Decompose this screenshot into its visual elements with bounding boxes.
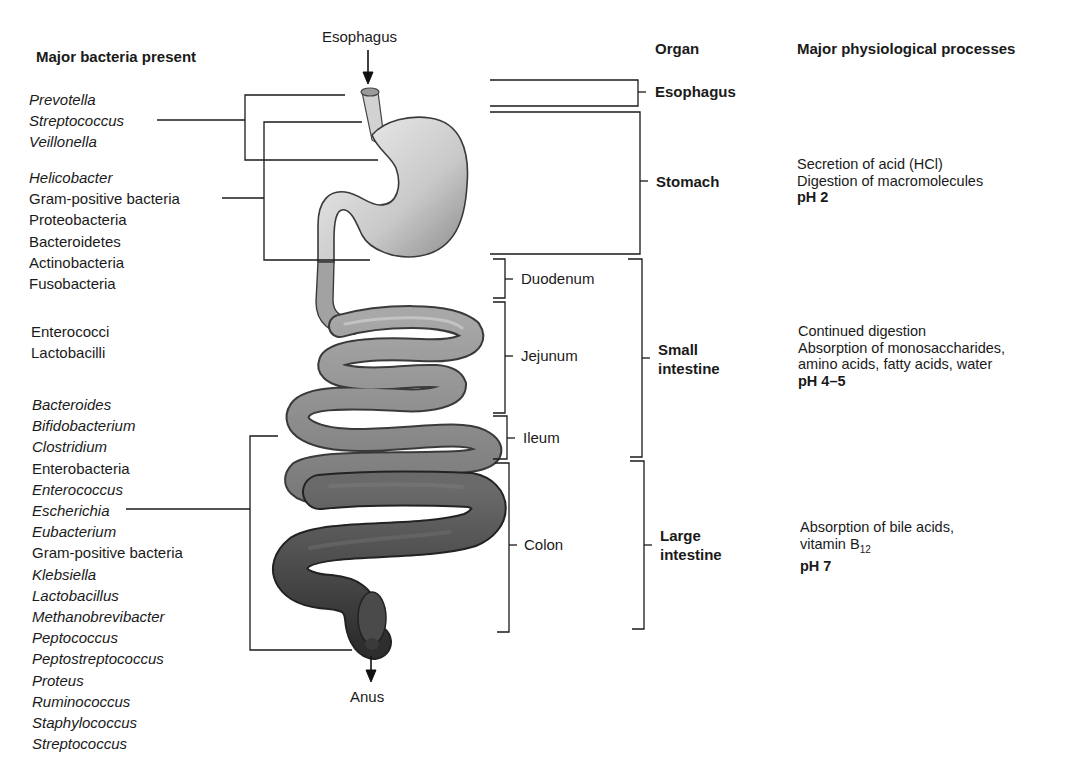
organ-label-stomach: Stomach bbox=[656, 172, 719, 191]
processes-stomach: Secretion of acid (HCl) Digestion of mac… bbox=[797, 156, 983, 206]
bacteria-item: Streptococcus bbox=[29, 110, 124, 131]
process-line: Digestion of macromolecules bbox=[797, 173, 983, 190]
bacteria-item: Enterococci bbox=[31, 321, 109, 342]
bacteria-item: Peptostreptococcus bbox=[32, 648, 183, 669]
bacteria-item: Methanobrevibacter bbox=[32, 606, 183, 627]
bacteria-group-esophagus: Prevotella Streptococcus Veillonella bbox=[29, 89, 124, 153]
process-line: Absorption of monosaccharides, bbox=[798, 340, 1005, 357]
esophagus-entry-label: Esophagus bbox=[322, 28, 397, 45]
bacteria-item: Staphylococcus bbox=[32, 712, 183, 733]
organ-label-line: intestine bbox=[658, 359, 720, 378]
colon-organ bbox=[290, 485, 489, 650]
ph-value: pH 7 bbox=[800, 558, 954, 575]
ph-value: pH 4–5 bbox=[798, 373, 1005, 390]
bacteria-item: Bacteroidetes bbox=[29, 231, 180, 252]
bacteria-item: Proteus bbox=[32, 670, 183, 691]
process-line: Absorption of bile acids, bbox=[800, 519, 954, 536]
segment-label-colon: Colon bbox=[524, 536, 563, 553]
bacteria-item: Gram-positive bacteria bbox=[32, 542, 183, 563]
bacteria-item: Proteobacteria bbox=[29, 209, 180, 230]
process-line: vitamin B12 bbox=[800, 536, 954, 558]
organ-label-line: Large bbox=[660, 526, 722, 545]
bacteria-column-header: Major bacteria present bbox=[36, 48, 196, 65]
bacteria-item: Gram-positive bacteria bbox=[29, 188, 180, 209]
bacteria-group-large-intestine: Bacteroides Bifidobacterium Clostridium … bbox=[32, 394, 183, 754]
bacteria-group-stomach: Helicobacter Gram-positive bacteria Prot… bbox=[29, 167, 180, 294]
bacteria-group-small-intestine: Enterococci Lactobacilli bbox=[31, 321, 109, 363]
process-line: Secretion of acid (HCl) bbox=[797, 156, 983, 173]
stomach-organ bbox=[318, 117, 468, 262]
small-intestine-organ bbox=[296, 317, 490, 492]
organ-column-header: Organ bbox=[655, 40, 699, 57]
organ-label-esophagus: Esophagus bbox=[655, 82, 736, 101]
processes-small-intestine: Continued digestion Absorption of monosa… bbox=[798, 323, 1005, 389]
bacteria-item: Lactobacilli bbox=[31, 342, 109, 363]
bacteria-item: Enterobacteria bbox=[32, 458, 183, 479]
organ-label-large-intestine: Large intestine bbox=[660, 526, 722, 564]
bacteria-item: Ruminococcus bbox=[32, 691, 183, 712]
processes-column-header: Major physiological processes bbox=[797, 40, 1015, 57]
process-text: vitamin B bbox=[800, 536, 860, 552]
processes-large-intestine: Absorption of bile acids, vitamin B12 pH… bbox=[800, 519, 954, 574]
bacteria-item: Klebsiella bbox=[32, 564, 183, 585]
bacteria-item: Clostridium bbox=[32, 436, 183, 457]
bacteria-item: Enterococcus bbox=[32, 479, 183, 500]
bacteria-item: Bifidobacterium bbox=[32, 415, 183, 436]
process-line: Continued digestion bbox=[798, 323, 1005, 340]
subscript: 12 bbox=[860, 543, 871, 554]
segment-label-duodenum: Duodenum bbox=[521, 270, 594, 287]
process-line: amino acids, fatty acids, water bbox=[798, 356, 1005, 373]
organ-label-line: intestine bbox=[660, 545, 722, 564]
bacteria-item: Peptococcus bbox=[32, 627, 183, 648]
organ-label-line: Small bbox=[658, 340, 720, 359]
bacteria-item: Fusobacteria bbox=[29, 273, 180, 294]
anus-exit-label: Anus bbox=[350, 688, 384, 705]
esophagus-arrow-icon bbox=[363, 50, 373, 84]
bacteria-item: Escherichia bbox=[32, 500, 183, 521]
bacteria-item: Veillonella bbox=[29, 131, 124, 152]
ph-value: pH 2 bbox=[797, 189, 983, 206]
bacteria-item: Bacteroides bbox=[32, 394, 183, 415]
bacteria-item: Lactobacillus bbox=[32, 585, 183, 606]
segment-label-ileum: Ileum bbox=[523, 429, 560, 446]
bacteria-item: Prevotella bbox=[29, 89, 124, 110]
bacteria-item: Actinobacteria bbox=[29, 252, 180, 273]
organ-label-small-intestine: Small intestine bbox=[658, 340, 720, 378]
bacteria-item: Eubacterium bbox=[32, 521, 183, 542]
segment-label-jejunum: Jejunum bbox=[521, 347, 578, 364]
bacteria-item: Streptococcus bbox=[32, 733, 183, 754]
bacteria-item: Helicobacter bbox=[29, 167, 180, 188]
